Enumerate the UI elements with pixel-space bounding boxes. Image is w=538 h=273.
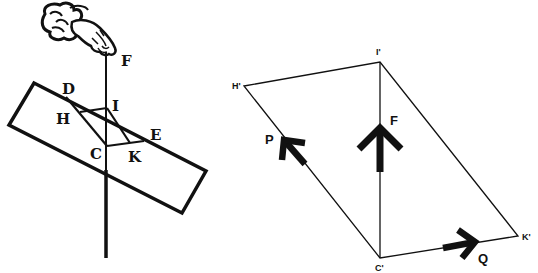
label-force-Q: Q bbox=[478, 251, 488, 266]
label-F: F bbox=[121, 52, 132, 70]
label-I-prime: I' bbox=[376, 47, 381, 57]
label-K-prime: K' bbox=[522, 232, 531, 242]
label-force-P: P bbox=[265, 132, 274, 147]
arrow-up-left-icon bbox=[282, 140, 305, 164]
label-C-prime: C' bbox=[375, 263, 384, 273]
label-H-prime: H' bbox=[232, 81, 241, 91]
label-I: I bbox=[112, 97, 119, 115]
force-diagram: F D I H E C K H' I' C' K' F P bbox=[0, 0, 538, 273]
arrow-right-icon bbox=[443, 230, 475, 258]
parallelogram-panel: H' I' C' K' F P Q bbox=[232, 47, 531, 273]
label-force-F: F bbox=[390, 113, 398, 128]
arrow-up-icon bbox=[359, 128, 401, 172]
hand-icon bbox=[42, 3, 115, 55]
label-C: C bbox=[90, 145, 102, 163]
label-H: H bbox=[56, 110, 70, 128]
woodcut-panel: F D I H E C K bbox=[9, 3, 206, 258]
label-D: D bbox=[62, 80, 75, 98]
label-K: K bbox=[128, 148, 142, 166]
label-E: E bbox=[150, 126, 161, 144]
